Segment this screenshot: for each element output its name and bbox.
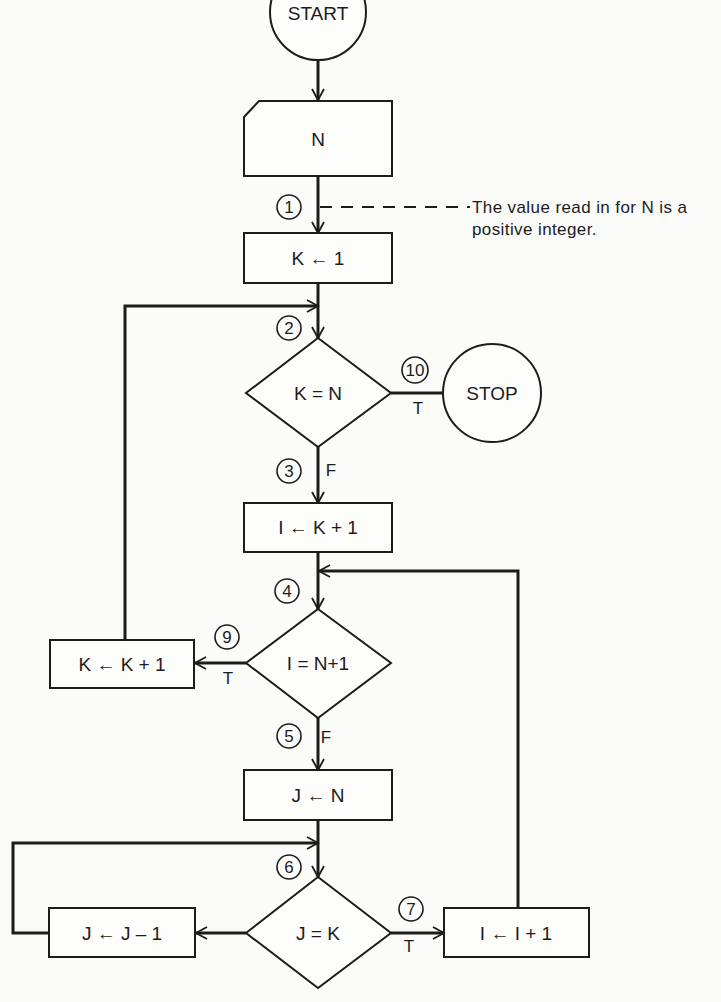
connector-9: 9 <box>215 625 239 649</box>
decision-j-eq-k-label: J = K <box>296 923 340 944</box>
flowchart: START N The value read in for N is a pos… <box>0 0 721 1002</box>
connector-10: 10 <box>402 357 428 383</box>
process-k-init-label: K ← 1 <box>292 248 345 269</box>
branch-label-k-eq-n-true: T <box>413 399 423 418</box>
decision-k-eq-n: K = N <box>246 338 391 447</box>
stop-label: STOP <box>466 383 517 404</box>
annotation-line-1: The value read in for N is a <box>472 198 687 217</box>
connector-5-label: 5 <box>284 727 293 746</box>
process-j-init-label: J ← N <box>292 785 345 806</box>
connector-2: 2 <box>277 316 301 340</box>
connector-1: 1 <box>277 195 301 219</box>
connector-6-label: 6 <box>284 858 293 877</box>
input-node: N <box>244 101 392 176</box>
start-terminal: START <box>270 0 366 60</box>
input-label: N <box>311 129 325 150</box>
process-j-init: J ← N <box>244 770 392 820</box>
start-label: START <box>288 3 349 24</box>
process-k-inc-label: K ← K + 1 <box>78 654 165 675</box>
connector-1-label: 1 <box>284 198 293 217</box>
connector-6: 6 <box>277 855 301 879</box>
connector-5: 5 <box>277 724 301 748</box>
decision-i-eq-n1-label: I = N+1 <box>287 653 349 674</box>
connector-2-label: 2 <box>284 319 293 338</box>
decision-i-eq-n1: I = N+1 <box>246 609 391 718</box>
connector-9-label: 9 <box>222 628 231 647</box>
connector-4-label: 4 <box>282 582 291 601</box>
connector-10-label: 10 <box>406 361 425 380</box>
process-k-inc: K ← K + 1 <box>50 640 194 688</box>
connector-3-label: 3 <box>284 462 293 481</box>
branch-label-i-eq-n1-true: T <box>223 669 233 688</box>
process-i-inc-label: I ← I + 1 <box>480 923 552 944</box>
connector-4: 4 <box>275 579 299 603</box>
stop-terminal: STOP <box>443 344 541 442</box>
process-k-init: K ← 1 <box>244 233 392 283</box>
process-i-init: I ← K + 1 <box>244 503 392 552</box>
edge-i-inc-loop-to-i-eq-n1 <box>319 571 518 908</box>
process-j-dec-label: J ← J – 1 <box>82 923 162 944</box>
process-j-dec: J ← J – 1 <box>49 908 195 957</box>
decision-j-eq-k: J = K <box>246 877 391 988</box>
annotation: The value read in for N is a positive in… <box>472 198 687 239</box>
process-i-init-label: I ← K + 1 <box>278 517 358 538</box>
connector-7-label: 7 <box>406 900 415 919</box>
branch-label-j-eq-k-true: T <box>404 937 414 956</box>
annotation-line-2: positive integer. <box>472 220 597 239</box>
decision-k-eq-n-label: K = N <box>294 383 342 404</box>
branch-label-i-eq-n1-false: F <box>321 728 331 747</box>
process-i-inc: I ← I + 1 <box>444 908 589 957</box>
connector-3: 3 <box>277 459 301 483</box>
connector-7: 7 <box>399 897 423 921</box>
branch-label-k-eq-n-false: F <box>326 461 336 480</box>
